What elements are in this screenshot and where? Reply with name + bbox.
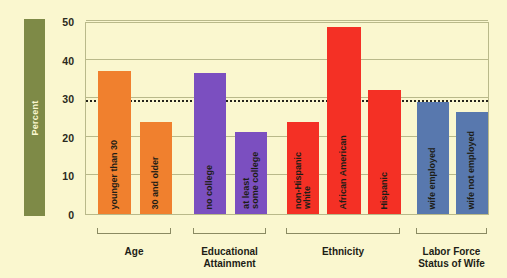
bar-younger-than-30[interactable]: younger than 30 bbox=[98, 71, 131, 214]
bar-wife-not-employed[interactable]: wife not employed bbox=[456, 112, 488, 214]
bar-at-least-some-college[interactable]: at leastsome college bbox=[235, 132, 267, 214]
bar-label: 30 and older bbox=[151, 156, 160, 209]
bar-label: African American bbox=[339, 135, 348, 209]
bar-label: non-Hispanicwhite bbox=[294, 152, 313, 209]
bar-hispanic[interactable]: Hispanic bbox=[368, 90, 401, 214]
y-axis-title: Percent bbox=[30, 100, 40, 135]
bar-label: younger than 30 bbox=[110, 139, 119, 209]
y-tick-20: 20 bbox=[52, 133, 74, 144]
bar-label: no college bbox=[205, 164, 214, 209]
bar-30-and-older[interactable]: 30 and older bbox=[140, 122, 172, 214]
bar-no-college[interactable]: no college bbox=[194, 73, 226, 214]
plot-area: younger than 3030 and olderno collegeat … bbox=[85, 22, 489, 215]
bar-label: wife employed bbox=[428, 147, 437, 209]
bar-label: at leastsome college bbox=[242, 152, 261, 209]
bar-african-american[interactable]: African American bbox=[327, 27, 361, 214]
bar-wife-employed[interactable]: wife employed bbox=[417, 102, 449, 214]
group-bracket bbox=[416, 228, 487, 234]
bar-chart: Percent 50403020100 younger than 3030 an… bbox=[0, 0, 507, 278]
y-tick-0: 0 bbox=[52, 210, 74, 221]
bar-non-hispanic-white[interactable]: non-Hispanicwhite bbox=[287, 122, 319, 214]
group-bracket bbox=[286, 228, 400, 234]
gridline-30 bbox=[86, 97, 488, 98]
bar-label: wife not employed bbox=[467, 130, 476, 209]
y-tick-50: 50 bbox=[52, 17, 74, 28]
y-tick-30: 30 bbox=[52, 94, 74, 105]
group-bracket bbox=[193, 228, 266, 234]
y-axis-band: Percent bbox=[24, 19, 45, 216]
bar-label: Hispanic bbox=[380, 171, 389, 209]
gridline-50 bbox=[86, 20, 488, 21]
gridline-40 bbox=[86, 59, 488, 60]
y-tick-40: 40 bbox=[52, 56, 74, 67]
y-tick-10: 10 bbox=[52, 171, 74, 182]
group-caption: Labor ForceStatus of Wife bbox=[386, 246, 507, 269]
group-bracket bbox=[97, 228, 171, 234]
